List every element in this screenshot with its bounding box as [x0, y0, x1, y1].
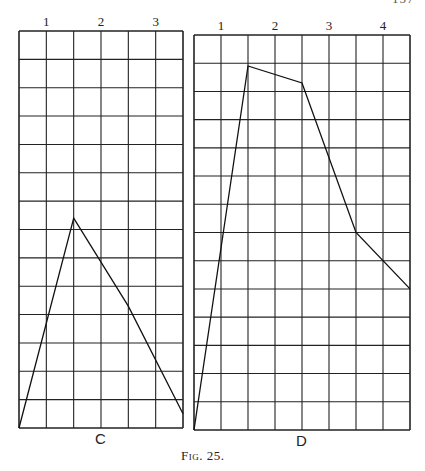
figure-caption: Fig. 25.	[181, 448, 224, 464]
panel-label-d: D	[296, 432, 307, 449]
x-tick-label: 1	[218, 18, 225, 33]
grid-lines	[194, 35, 410, 430]
x-tick-label: 3	[326, 18, 333, 33]
grid-lines	[19, 31, 183, 428]
x-tick-label: 1	[43, 14, 50, 29]
figure-plots: 1231234	[0, 0, 425, 471]
x-tick-label: 2	[272, 18, 279, 33]
chart-c: 123	[19, 14, 183, 428]
x-tick-label: 4	[380, 18, 387, 33]
x-tick-label: 3	[152, 14, 159, 29]
chart-d: 1234	[194, 18, 410, 430]
x-tick-labels: 123	[43, 14, 159, 29]
panel-label-c: C	[95, 430, 106, 447]
x-tick-label: 2	[98, 14, 105, 29]
x-tick-labels: 1234	[218, 18, 387, 33]
